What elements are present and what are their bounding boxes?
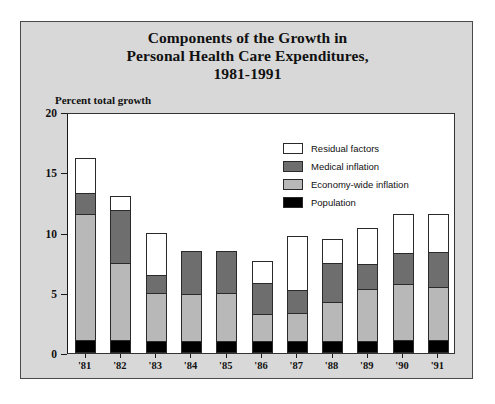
bar-segment-residual-factors: [75, 158, 96, 193]
bar-segment-population: [146, 341, 167, 353]
x-axis-tick: [85, 354, 86, 358]
legend-swatch-residual-factors: [283, 143, 303, 154]
title-line-3: 1981-1991: [21, 65, 474, 83]
y-axis-tick-label: 20: [21, 107, 57, 119]
bar-segment-economy-wide-inflation: [287, 313, 308, 341]
chart-page: Components of the Growth in Personal Hea…: [0, 0, 495, 404]
bar-segment-residual-factors: [287, 236, 308, 290]
bar-segment-residual-factors: [146, 233, 167, 275]
x-axis-tick: [261, 354, 262, 358]
x-axis-tick-label: '91: [431, 360, 444, 371]
bar-segment-population: [181, 341, 202, 353]
y-axis-tick-label: 5: [21, 288, 57, 300]
x-axis-tick-label: '85: [219, 360, 232, 371]
bar-segment-economy-wide-inflation: [252, 314, 273, 341]
bar-segment-residual-factors: [357, 228, 378, 264]
x-axis-tick-label: '81: [78, 360, 91, 371]
x-axis-tick: [190, 354, 191, 358]
bar-segment-medical-inflation: [110, 210, 131, 263]
bar-segment-medical-inflation: [146, 275, 167, 293]
y-axis-tick-label: 15: [21, 167, 57, 179]
bar-segment-economy-wide-inflation: [357, 289, 378, 341]
plot-area: Residual factorsMedical inflationEconomy…: [67, 113, 455, 354]
bar-segment-medical-inflation: [357, 264, 378, 289]
legend-item: Medical inflation: [283, 159, 483, 174]
x-axis-tick-label: '86: [254, 360, 267, 371]
bar-86[interactable]: [252, 112, 273, 353]
bar-segment-economy-wide-inflation: [110, 263, 131, 340]
bar-segment-population: [428, 340, 449, 353]
bar-segment-medical-inflation: [428, 252, 449, 287]
x-axis-tick-label: '88: [325, 360, 338, 371]
x-axis-tick: [155, 354, 156, 358]
bar-segment-economy-wide-inflation: [216, 293, 237, 341]
bar-segment-residual-factors: [393, 214, 414, 253]
y-axis-tick-label: 10: [21, 228, 57, 240]
y-axis-tick-label: 0: [21, 348, 57, 360]
bar-segment-population: [322, 341, 343, 353]
chart-panel: Components of the Growth in Personal Hea…: [20, 21, 473, 379]
bar-segment-residual-factors: [110, 196, 131, 209]
bar-segment-medical-inflation: [75, 193, 96, 215]
bar-segment-medical-inflation: [252, 283, 273, 314]
bar-segment-economy-wide-inflation: [428, 287, 449, 340]
bar-83[interactable]: [146, 112, 167, 353]
bar-segment-population: [252, 341, 273, 353]
legend-label: Medical inflation: [311, 161, 379, 172]
x-axis-tick-label: '84: [184, 360, 197, 371]
bar-segment-medical-inflation: [181, 251, 202, 294]
bar-segment-population: [216, 341, 237, 353]
x-axis-tick: [226, 354, 227, 358]
bar-81[interactable]: [75, 112, 96, 353]
title-line-1: Components of the Growth in: [21, 29, 474, 47]
x-axis-tick: [437, 354, 438, 358]
bar-segment-medical-inflation: [322, 263, 343, 303]
bar-84[interactable]: [181, 112, 202, 353]
legend: Residual factorsMedical inflationEconomy…: [283, 141, 483, 213]
bar-segment-population: [110, 340, 131, 353]
legend-swatch-economy-wide-inflation: [283, 179, 303, 190]
x-axis-tick: [332, 354, 333, 358]
bar-segment-medical-inflation: [287, 290, 308, 313]
x-axis-tick: [296, 354, 297, 358]
legend-label: Population: [311, 197, 356, 208]
x-axis-tick-label: '83: [148, 360, 161, 371]
legend-label: Residual factors: [311, 143, 379, 154]
title-line-2: Personal Health Care Expenditures,: [21, 47, 474, 65]
legend-swatch-population: [283, 197, 303, 208]
x-axis-tick: [120, 354, 121, 358]
bar-segment-medical-inflation: [216, 251, 237, 293]
bar-82[interactable]: [110, 112, 131, 353]
bar-segment-economy-wide-inflation: [393, 284, 414, 339]
bar-segment-residual-factors: [322, 239, 343, 263]
bar-segment-population: [287, 341, 308, 353]
legend-label: Economy-wide inflation: [311, 179, 409, 190]
x-axis-tick-label: '87: [290, 360, 303, 371]
bar-segment-economy-wide-inflation: [322, 302, 343, 341]
x-axis-tick: [402, 354, 403, 358]
bar-segment-residual-factors: [252, 261, 273, 283]
bar-segment-population: [75, 340, 96, 353]
page-title: Components of the Growth in Personal Hea…: [21, 29, 474, 83]
bar-segment-population: [393, 340, 414, 353]
legend-item: Residual factors: [283, 141, 483, 156]
legend-swatch-medical-inflation: [283, 161, 303, 172]
bar-segment-economy-wide-inflation: [75, 214, 96, 339]
bar-segment-residual-factors: [428, 214, 449, 251]
bar-segment-economy-wide-inflation: [146, 293, 167, 341]
y-axis-label: Percent total growth: [55, 94, 151, 106]
bar-segment-population: [357, 341, 378, 353]
y-axis-tick: [61, 354, 67, 355]
bar-85[interactable]: [216, 112, 237, 353]
x-axis-tick-label: '82: [113, 360, 126, 371]
x-axis-tick: [367, 354, 368, 358]
bar-segment-economy-wide-inflation: [181, 294, 202, 341]
legend-item: Population: [283, 195, 483, 210]
x-axis-tick-label: '90: [395, 360, 408, 371]
bar-segment-medical-inflation: [393, 253, 414, 284]
legend-item: Economy-wide inflation: [283, 177, 483, 192]
x-axis-tick-label: '89: [360, 360, 373, 371]
